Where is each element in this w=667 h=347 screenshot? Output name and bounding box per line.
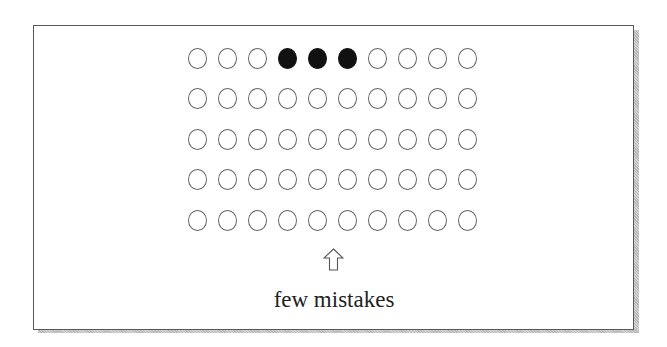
filled-dot bbox=[308, 48, 327, 69]
empty-dot bbox=[398, 88, 417, 109]
empty-dot bbox=[458, 88, 477, 109]
up-arrow-icon bbox=[323, 248, 344, 271]
empty-dot bbox=[368, 88, 387, 109]
empty-dot bbox=[278, 88, 297, 109]
empty-dot bbox=[188, 169, 207, 190]
empty-dot bbox=[188, 129, 207, 150]
empty-dot bbox=[248, 210, 267, 231]
empty-dot bbox=[218, 169, 237, 190]
empty-dot bbox=[458, 210, 477, 231]
empty-dot bbox=[308, 169, 327, 190]
empty-dot bbox=[398, 129, 417, 150]
empty-dot bbox=[338, 169, 357, 190]
empty-dot bbox=[218, 88, 237, 109]
empty-dot bbox=[308, 129, 327, 150]
empty-dot bbox=[248, 169, 267, 190]
empty-dot bbox=[218, 129, 237, 150]
empty-dot bbox=[338, 88, 357, 109]
empty-dot bbox=[338, 129, 357, 150]
empty-dot bbox=[248, 88, 267, 109]
empty-dot bbox=[398, 169, 417, 190]
empty-dot bbox=[368, 129, 387, 150]
empty-dot bbox=[428, 88, 447, 109]
empty-dot bbox=[278, 210, 297, 231]
empty-dot bbox=[278, 169, 297, 190]
filled-dot bbox=[338, 48, 357, 69]
empty-dot bbox=[398, 210, 417, 231]
empty-dot bbox=[368, 48, 387, 69]
empty-dot bbox=[278, 129, 297, 150]
empty-dot bbox=[428, 169, 447, 190]
empty-dot bbox=[248, 48, 267, 69]
empty-dot bbox=[248, 129, 267, 150]
empty-dot bbox=[398, 48, 417, 69]
empty-dot bbox=[218, 48, 237, 69]
empty-dot bbox=[458, 48, 477, 69]
filled-dot bbox=[278, 48, 297, 69]
empty-dot bbox=[218, 210, 237, 231]
empty-dot bbox=[428, 210, 447, 231]
empty-dot bbox=[338, 210, 357, 231]
empty-dot bbox=[368, 210, 387, 231]
empty-dot bbox=[188, 88, 207, 109]
empty-dot bbox=[308, 210, 327, 231]
empty-dot bbox=[368, 169, 387, 190]
empty-dot bbox=[308, 88, 327, 109]
caption-label: few mistakes bbox=[200, 287, 468, 313]
empty-dot bbox=[428, 129, 447, 150]
empty-dot bbox=[458, 129, 477, 150]
empty-dot bbox=[458, 169, 477, 190]
empty-dot bbox=[188, 48, 207, 69]
empty-dot bbox=[428, 48, 447, 69]
empty-dot bbox=[188, 210, 207, 231]
